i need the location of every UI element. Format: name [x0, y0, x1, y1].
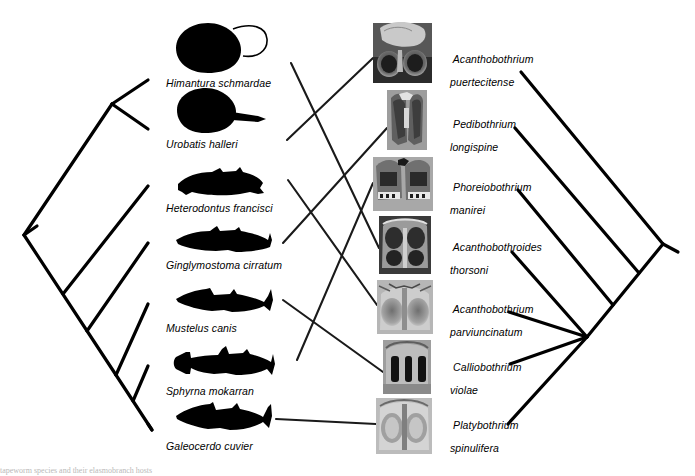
parasite-label-p-longispine: Pedibothrium longispine [441, 107, 516, 176]
host-branch-himantura [112, 80, 148, 104]
host-label-galeocerdo: Galeocerdo cuvier [166, 441, 253, 453]
parasite-label-line2: violae [441, 385, 522, 397]
host-branch-ginglymostoma [87, 243, 148, 331]
sem-micrographs [373, 22, 433, 454]
sem-image-a-puertecitense [373, 22, 432, 83]
cophylogeny-figure: Himantura schmardae Urobatis halleri Het… [0, 0, 695, 476]
association-heterodontus-a-parviuncinatum [288, 180, 377, 305]
parasite-label-a-puertecitense: Acanthobothrium puertecitense [441, 42, 534, 111]
host-label-himantura: Himantura schmardae [166, 78, 271, 90]
host-label-urobatis: Urobatis halleri [166, 139, 238, 151]
silhouette-heterodontus-francisci [178, 167, 264, 195]
parasite-label-line1: Platybothrium [453, 419, 519, 431]
parasite-label-line1: Calliobothrium [453, 361, 522, 373]
host-label-mustelus: Mustelus canis [166, 323, 237, 335]
association-lines [276, 58, 387, 424]
silhouette-urobatis-halleri [177, 88, 266, 133]
host-branch-urobatis [112, 104, 148, 129]
parasite-label-line2: spinulifera [441, 443, 519, 455]
silhouette-himantura-schmardae [176, 23, 267, 73]
phylogeny-lines-layer [0, 0, 695, 476]
sem-image-p-longispine [387, 90, 427, 150]
parasite-label-line1: Acanthobothroides [453, 241, 542, 253]
host-branch-heterodontus [63, 186, 148, 294]
silhouette-sphyrna-mokarran [174, 346, 275, 375]
host-branch-shark-spine [24, 235, 116, 375]
host-branch-galeocerdo [148, 424, 152, 430]
silhouette-mustelus-canis [176, 288, 273, 312]
figure-caption-fragment: tapeworm species and their elasmobranch … [0, 466, 695, 475]
sem-image-a-parviuncinatum [377, 280, 433, 334]
parasite-label-line1: Phoreiobothrium [453, 181, 532, 193]
silhouette-galeocerdo-cuvier [176, 402, 272, 430]
parasite-label-line1: Acanthobothrium [453, 53, 534, 65]
sem-image-a-thorsoni [379, 216, 431, 274]
host-label-sphyrna: Sphyrna mokarran [166, 386, 254, 398]
sem-image-p-spinulifera [376, 398, 432, 454]
parasite-label-line1: Acanthobothrium [453, 303, 534, 315]
silhouette-ginglymostoma-cirratum [176, 226, 272, 252]
sem-image-p-manirei [373, 157, 433, 211]
parasite-label-line2: puertecitense [441, 77, 534, 89]
association-galeocerdo-p-spinulifera [276, 419, 376, 424]
host-label-ginglymostoma: Ginglymostoma cirratum [166, 260, 282, 272]
host-branch-mustelus [116, 304, 148, 375]
association-mustelus-c-violae [283, 300, 383, 372]
host-branch-carcharhinid-spine [116, 375, 152, 430]
host-tree-branches [24, 80, 152, 430]
host-branch-sphyrna [133, 366, 148, 401]
parasite-label-line2: parviuncinatum [441, 327, 534, 339]
parasite-label-line1: Pedibothrium [453, 118, 516, 130]
host-label-heterodontus: Heterodontus francisci [166, 203, 273, 215]
sem-image-c-violae [383, 340, 431, 394]
association-urobatis-a-puertecitense [287, 58, 373, 140]
parasite-label-line2: manirei [441, 205, 532, 217]
parasite-label-a-thorsoni: Acanthobothroides thorsoni [441, 230, 542, 299]
parasite-label-line2: longispine [441, 142, 516, 154]
parasite-label-line2: thorsoni [441, 265, 542, 277]
parasite-branch-root [663, 244, 678, 252]
host-branch-batoid-spine [24, 104, 112, 235]
parasite-label-p-manirei: Phoreiobothrium manirei [441, 170, 532, 239]
